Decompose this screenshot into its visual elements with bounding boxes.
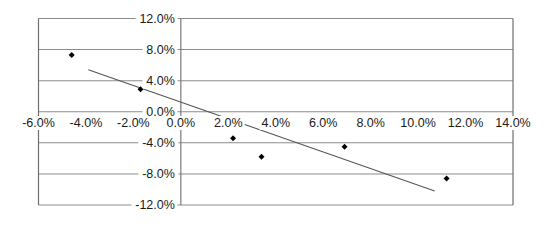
y-tick-label-wrap: 4.0% bbox=[142, 74, 178, 87]
x-tick-label: 2.0% bbox=[212, 116, 245, 130]
y-tick-label-wrap: -8.0% bbox=[138, 168, 178, 181]
x-tick-label: -6.0% bbox=[20, 116, 57, 130]
x-tick-label: 10.0% bbox=[398, 116, 437, 130]
x-tick-label: 12.0% bbox=[446, 116, 485, 130]
x-tick-label: 8.0% bbox=[354, 116, 387, 130]
y-tick-label: -4.0% bbox=[138, 135, 178, 151]
y-tick-label: 4.0% bbox=[142, 72, 178, 88]
x-tick-label: 0.0% bbox=[165, 116, 198, 130]
x-tick-label-wrap: 8.0% bbox=[354, 117, 387, 130]
y-tick-label: 12.0% bbox=[135, 10, 177, 26]
x-tick-label-wrap: -2.0% bbox=[115, 117, 152, 130]
plot-area bbox=[0, 0, 558, 226]
x-tick-label-wrap: 6.0% bbox=[307, 117, 340, 130]
x-tick-label: 6.0% bbox=[307, 116, 340, 130]
x-tick-label: 14.0% bbox=[493, 116, 532, 130]
x-tick-label-wrap: 4.0% bbox=[260, 117, 293, 130]
x-tick-label-wrap: 2.0% bbox=[212, 117, 245, 130]
y-tick-label: -8.0% bbox=[138, 166, 178, 182]
data-point-marker bbox=[69, 52, 75, 58]
y-tick-label-wrap: 12.0% bbox=[135, 12, 177, 25]
data-point-marker bbox=[444, 176, 450, 182]
scatter-chart: 12.0%8.0%4.0%0.0%-4.0%-8.0%-12.0% -6.0%-… bbox=[0, 0, 558, 226]
x-tick-label: -2.0% bbox=[115, 116, 152, 130]
x-tick-label-wrap: 12.0% bbox=[446, 117, 485, 130]
y-tick-label-wrap: -4.0% bbox=[138, 137, 178, 150]
y-tick-label-wrap: -12.0% bbox=[131, 199, 178, 212]
x-tick-label-wrap: 0.0% bbox=[165, 117, 198, 130]
y-tick-label: 8.0% bbox=[142, 41, 178, 57]
x-tick-label-wrap: -6.0% bbox=[20, 117, 57, 130]
y-tick-label: -12.0% bbox=[131, 197, 178, 213]
y-tick-label-wrap: 8.0% bbox=[142, 43, 178, 56]
data-point-marker bbox=[230, 135, 236, 141]
x-tick-label-wrap: 10.0% bbox=[398, 117, 437, 130]
x-tick-label: 4.0% bbox=[260, 116, 293, 130]
x-tick-label-wrap: -4.0% bbox=[68, 117, 105, 130]
gridlines-group bbox=[39, 19, 514, 206]
x-tick-label: -4.0% bbox=[68, 116, 105, 130]
x-tick-label-wrap: 14.0% bbox=[493, 117, 532, 130]
data-point-marker bbox=[259, 154, 265, 160]
data-point-marker bbox=[342, 144, 348, 150]
